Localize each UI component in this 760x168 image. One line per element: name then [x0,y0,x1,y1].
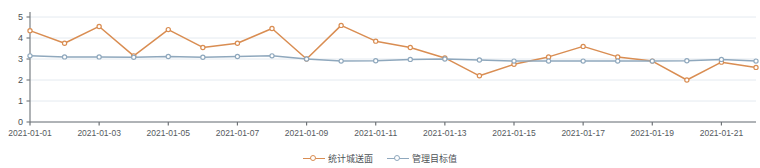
data-point-marker [339,23,343,27]
y-tick-label: 5 [18,12,23,22]
data-point-marker [62,55,66,59]
x-tick-label: 2021-01-15 [492,128,536,138]
x-tick-labels: 2021-01-012021-01-032021-01-052021-01-07… [8,128,743,138]
data-point-marker [132,55,136,59]
data-point-marker [685,59,689,63]
legend-dot-series-1 [394,155,400,161]
y-tick-label: 2 [18,75,23,85]
x-tick-label: 2021-01-07 [216,128,260,138]
data-point-marker [97,55,101,59]
data-point-marker [28,54,32,58]
x-axis [30,122,756,126]
data-point-marker [477,58,481,62]
data-point-marker [339,59,343,63]
y-tick-label: 1 [18,96,23,106]
x-tick-label: 2021-01-01 [8,128,52,138]
data-point-marker [408,45,412,49]
chart-svg: 012345 2021-01-012021-01-032021-01-05202… [0,0,760,140]
data-point-marker [581,44,585,48]
chart-legend: 统计城送面 管理目标值 [0,150,760,166]
legend-marker-icon-series-1 [387,154,409,163]
y-tick-label: 0 [18,117,23,127]
data-point-marker [304,57,308,61]
legend-label-series-1: 管理目标值 [412,152,457,165]
data-point-marker [166,28,170,32]
data-point-marker [581,59,585,63]
data-point-marker [201,55,205,59]
x-tick-label: 2021-01-21 [700,128,744,138]
y-tick-label: 3 [18,54,23,64]
y-tick-label: 4 [18,33,23,43]
x-tick-label: 2021-01-19 [631,128,675,138]
x-tick-label: 2021-01-03 [77,128,121,138]
data-point-marker [166,54,170,58]
data-point-marker [616,59,620,63]
legend-marker-icon-series-0 [303,154,325,163]
data-point-marker [719,57,723,61]
data-point-marker [443,57,447,61]
line-chart: 012345 2021-01-012021-01-032021-01-05202… [0,0,760,168]
data-point-marker [546,55,550,59]
data-point-marker [616,55,620,59]
data-point-marker [270,26,274,30]
y-tick-labels: 012345 [18,12,23,127]
data-point-marker [374,59,378,63]
legend-dot-series-0 [310,155,316,161]
x-tick-label: 2021-01-11 [354,128,397,138]
data-point-marker [270,54,274,58]
series-line-0 [30,25,756,80]
x-tick-label: 2021-01-09 [285,128,329,138]
series-lines [30,25,756,80]
legend-label-series-0: 统计城送面 [328,152,373,165]
legend-item-series-0[interactable]: 统计城送面 [303,152,373,165]
legend-item-series-1[interactable]: 管理目标值 [387,152,457,165]
data-point-marker [650,59,654,63]
data-point-marker [28,29,32,33]
data-point-marker [408,57,412,61]
data-point-marker [754,65,758,69]
data-point-marker [235,54,239,58]
data-point-marker [374,39,378,43]
x-tick-label: 2021-01-13 [423,128,467,138]
chart-plot-area: 012345 2021-01-012021-01-032021-01-05202… [0,0,760,140]
data-point-marker [235,41,239,45]
x-tick-label: 2021-01-17 [561,128,605,138]
x-tick-label: 2021-01-05 [147,128,191,138]
data-point-marker [201,45,205,49]
data-point-marker [685,78,689,82]
data-point-marker [97,24,101,28]
gridlines [30,17,756,122]
data-point-marker [546,59,550,63]
data-point-marker [62,41,66,45]
data-point-marker [754,59,758,63]
data-point-marker [477,74,481,78]
data-point-marker [512,59,516,63]
